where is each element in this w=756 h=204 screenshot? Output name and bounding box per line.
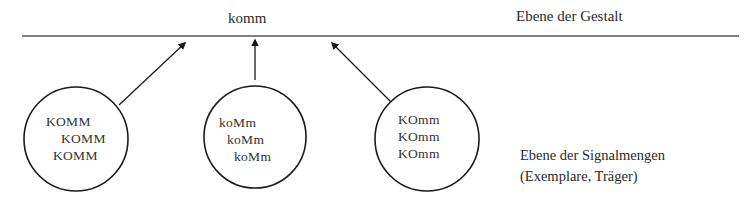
circle-1-line-1: KOMM <box>46 113 91 130</box>
circle-2-line-1: koMm <box>219 114 256 131</box>
circle-3-line-3: KOmm <box>398 145 440 162</box>
circle-2-line-3: koMm <box>234 148 271 165</box>
gestalt-level-label: Ebene der Gestalt <box>516 8 623 25</box>
gestalt-word: komm <box>228 10 266 27</box>
circle-1-line-3: KOMM <box>53 147 98 164</box>
signal-level-line-2: (Exemplare, Träger) <box>520 166 638 186</box>
diagram-canvas <box>0 0 756 204</box>
signal-level-line-1: Ebene der Signalmengen <box>520 145 665 165</box>
arrow-1 <box>119 43 185 105</box>
circle-3-line-1: KOmm <box>398 111 440 128</box>
circle-1-line-2: KOMM <box>61 130 106 147</box>
circle-2-line-2: koMm <box>227 131 264 148</box>
arrow-3 <box>332 43 391 102</box>
circle-3-line-2: KOmm <box>398 128 440 145</box>
